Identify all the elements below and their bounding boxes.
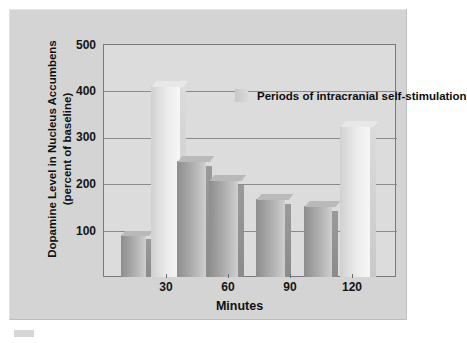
bar-3d-side — [332, 211, 338, 277]
bar-3d-side — [238, 185, 244, 277]
bar-face — [151, 86, 180, 277]
x-tickmark-30 — [166, 274, 167, 278]
x-tick-label-90: 90 — [270, 280, 310, 294]
bar-3d-cap — [121, 231, 153, 236]
bar-3d-cap — [178, 156, 215, 162]
y-tick-label-500: 500 — [48, 38, 96, 52]
y-axis-title: Dopamine Level in Nucleus Accumbens (per… — [24, 34, 86, 284]
bar-3d-cap — [152, 81, 189, 87]
bar-post-3[interactable] — [256, 199, 285, 277]
y-tick-label-300: 300 — [48, 130, 96, 144]
bar-stimulation-1[interactable] — [151, 86, 180, 277]
y-tick-label-200: 200 — [48, 177, 96, 191]
bar-3d-cap — [210, 175, 247, 181]
bar-stimulation-2[interactable] — [340, 126, 370, 277]
bar-baseline[interactable] — [121, 235, 146, 277]
bar-face — [209, 180, 238, 277]
y-tick-label-400: 400 — [48, 84, 96, 98]
bar-face — [256, 199, 285, 277]
x-axis-title: Minutes — [93, 299, 386, 313]
legend: Periods of intracranial self-stimulation — [235, 89, 467, 102]
x-tick-label-120: 120 — [332, 280, 372, 294]
legend-label-stimulation: Periods of intracranial self-stimulation — [257, 90, 467, 102]
x-tick-label-30: 30 — [146, 280, 186, 294]
bar-post-2[interactable] — [209, 180, 238, 277]
bar-face — [340, 126, 370, 277]
bar-post-4[interactable] — [304, 206, 332, 277]
x-tick-label-60: 60 — [208, 280, 248, 294]
bar-face — [121, 235, 146, 277]
plot-area: Periods of intracranial self-stimulation — [103, 44, 396, 277]
bar-3d-cap — [257, 194, 294, 200]
bar-3d-side — [285, 204, 291, 277]
x-tickmark-120 — [352, 274, 353, 278]
bar-3d-cap — [305, 201, 341, 207]
bar-3d-side — [370, 131, 376, 277]
y-tick-label-100: 100 — [48, 224, 96, 238]
bar-post-1[interactable] — [177, 161, 206, 277]
legend-swatch-stimulation — [235, 89, 248, 102]
x-tickmark-90 — [290, 274, 291, 278]
footer-swatch — [14, 330, 34, 337]
bar-face — [177, 161, 206, 277]
chart-card: Dopamine Level in Nucleus Accumbens (per… — [9, 9, 407, 320]
bar-3d-cap — [341, 121, 379, 127]
bar-face — [304, 206, 332, 277]
x-tickmark-60 — [228, 274, 229, 278]
